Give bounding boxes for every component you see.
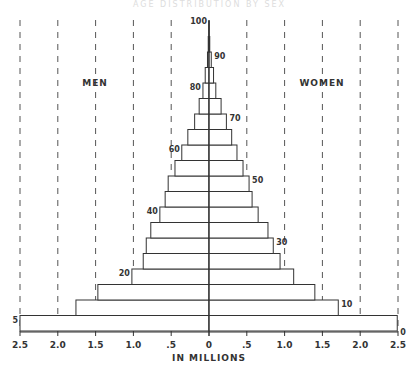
bar-men xyxy=(132,269,209,285)
bar-women xyxy=(209,68,214,84)
age-label-right: 30 xyxy=(276,238,288,247)
age-label-left: 80 xyxy=(190,83,202,92)
age-label-top: 100 xyxy=(190,17,207,26)
bar-men xyxy=(146,238,209,254)
x-tick-label: 0 xyxy=(206,340,212,350)
age-label-right: 10 xyxy=(341,300,353,309)
bar-women xyxy=(209,300,338,316)
bar-women xyxy=(209,192,252,208)
age-label-left: 5 xyxy=(12,316,18,325)
men-label: MEN xyxy=(82,78,108,88)
x-tick-label: 1.0 xyxy=(125,340,141,350)
bar-women xyxy=(209,285,315,301)
bar-women xyxy=(209,176,249,192)
age-label-right: 70 xyxy=(229,114,241,123)
bar-women xyxy=(209,161,243,177)
age-label-right: 90 xyxy=(214,52,226,61)
bar-men xyxy=(203,83,209,99)
bar-women xyxy=(209,223,268,239)
bar-women xyxy=(209,99,221,115)
bar-women xyxy=(209,238,273,254)
bar-women xyxy=(209,145,237,161)
bar-men xyxy=(98,285,209,301)
bar-men xyxy=(151,223,209,239)
x-tick-label: .5 xyxy=(242,340,252,350)
age-label-right: 50 xyxy=(252,176,264,185)
bar-men xyxy=(205,68,209,84)
x-tick-label: 1.5 xyxy=(314,340,330,350)
bar-men xyxy=(168,176,209,192)
x-tick-label: 2.0 xyxy=(50,340,66,350)
age-label-left: 40 xyxy=(147,207,159,216)
x-tick-label: 2.5 xyxy=(390,340,406,350)
x-tick-label: 1.5 xyxy=(88,340,104,350)
bar-men xyxy=(20,316,209,332)
bar-men xyxy=(175,161,209,177)
bar-men xyxy=(182,145,209,161)
bar-men xyxy=(199,99,209,115)
bar-men xyxy=(143,254,209,270)
x-tick-label: .5 xyxy=(166,340,176,350)
x-tick-label: 2.5 xyxy=(12,340,28,350)
age-label-left: 60 xyxy=(169,145,181,154)
x-tick-label: 1.0 xyxy=(277,340,293,350)
bar-men xyxy=(160,207,209,223)
age-label-left: 20 xyxy=(119,269,131,278)
x-tick-label: 2.0 xyxy=(352,340,368,350)
age-label-right: 0 xyxy=(400,328,406,337)
bar-men xyxy=(195,114,209,130)
bar-women xyxy=(209,114,226,130)
population-pyramid-chart: 2.52.01.51.0.50.51.01.52.02.5IN MILLIONS… xyxy=(0,0,419,371)
bar-women xyxy=(209,83,216,99)
bar-women xyxy=(209,130,232,146)
bar-women xyxy=(209,316,397,332)
bar-women xyxy=(209,269,294,285)
x-axis-label: IN MILLIONS xyxy=(172,353,246,363)
bar-men xyxy=(188,130,209,146)
bar-men xyxy=(76,300,209,316)
bar-men xyxy=(165,192,209,208)
bar-women xyxy=(209,254,280,270)
women-label: WOMEN xyxy=(299,78,344,88)
bar-women xyxy=(209,207,258,223)
